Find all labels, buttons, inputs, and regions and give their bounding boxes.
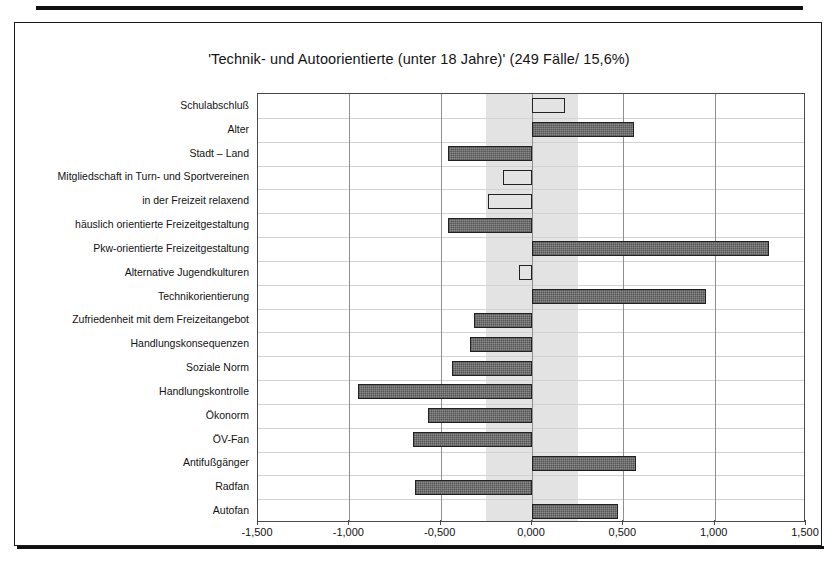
row-separator-gridline [258, 428, 804, 429]
bar-6 [532, 241, 769, 256]
bar-9 [474, 313, 532, 328]
row-separator-gridline [258, 142, 804, 143]
x-axis-tick-label-0: -1,500 [241, 526, 272, 538]
x-axis-tick-label-4: 0,500 [609, 526, 637, 538]
x-axis-tick-2 [440, 520, 441, 525]
y-axis-label-16: Radfan [215, 480, 249, 492]
chart-frame: 'Technik- und Autoorientierte (unter 18 … [14, 22, 822, 546]
y-axis-label-5: häuslich orientierte Freizeitgestaltung [75, 218, 249, 230]
bar-8 [532, 289, 706, 304]
vertical-gridline [715, 94, 716, 521]
row-separator-gridline [258, 261, 804, 262]
bar-17 [532, 504, 618, 519]
plot-area [257, 93, 805, 522]
x-axis-tick-6 [805, 520, 806, 525]
x-axis-tick-label-1: -1,000 [333, 526, 364, 538]
bar-7 [519, 265, 532, 280]
bar-5 [448, 218, 532, 233]
row-separator-gridline [258, 380, 804, 381]
y-axis-label-1: Alter [227, 123, 249, 135]
x-axis-tick-3 [531, 520, 532, 525]
x-axis-tick-labels: -1,500-1,000-0,5000,0000,5001,0001,500 [257, 526, 805, 546]
x-axis-tick-4 [622, 520, 623, 525]
bar-15 [532, 456, 636, 471]
y-axis-label-13: Ökonorm [206, 409, 249, 421]
bar-14 [413, 432, 532, 447]
row-separator-gridline [258, 499, 804, 500]
row-separator-gridline [258, 404, 804, 405]
y-axis-label-8: Technikorientierung [158, 290, 249, 302]
x-axis-tick-label-6: 1,500 [791, 526, 819, 538]
vertical-gridline [441, 94, 442, 521]
bar-16 [415, 480, 532, 495]
chart-title: 'Technik- und Autoorientierte (unter 18 … [15, 51, 823, 67]
y-axis-label-17: Autofan [213, 504, 249, 516]
row-separator-gridline [258, 118, 804, 119]
x-axis-tick-label-2: -0,500 [424, 526, 455, 538]
x-axis-tick-label-5: 1,000 [700, 526, 728, 538]
y-axis-label-14: ÖV-Fan [213, 433, 249, 445]
bar-1 [532, 122, 634, 137]
y-axis-category-labels: SchulabschlußAlterStadt – LandMitgliedsc… [15, 93, 255, 522]
bar-12 [358, 384, 532, 399]
row-separator-gridline [258, 189, 804, 190]
bar-13 [428, 408, 532, 423]
row-separator-gridline [258, 475, 804, 476]
bar-11 [452, 361, 532, 376]
y-axis-label-2: Stadt – Land [189, 147, 249, 159]
y-axis-label-6: Pkw-orientierte Freizeitgestaltung [93, 242, 249, 254]
y-axis-label-10: Handlungskonsequenzen [130, 337, 249, 349]
vertical-gridline [349, 94, 350, 521]
x-axis-tick-5 [714, 520, 715, 525]
x-axis-tick-1 [348, 520, 349, 525]
bar-2 [448, 146, 532, 161]
x-axis-tick-label-3: 0,000 [517, 526, 545, 538]
row-separator-gridline [258, 452, 804, 453]
y-axis-label-3: Mitgliedschaft in Turn- und Sportvereine… [58, 170, 249, 182]
bar-4 [488, 194, 532, 209]
y-axis-label-12: Handlungskontrolle [159, 385, 249, 397]
y-axis-label-9: Zufriedenheit mit dem Freizeitangebot [72, 313, 249, 325]
bar-0 [532, 98, 565, 113]
plot-wrapper [257, 93, 805, 522]
y-axis-label-7: Alternative Jugendkulturen [125, 266, 249, 278]
bar-10 [470, 337, 532, 352]
page-top-rule [36, 6, 803, 10]
y-axis-label-15: Antifußgänger [183, 456, 249, 468]
row-separator-gridline [258, 237, 804, 238]
row-separator-gridline [258, 213, 804, 214]
y-axis-label-4: in der Freizeit relaxend [142, 194, 249, 206]
row-separator-gridline [258, 285, 804, 286]
y-axis-label-11: Soziale Norm [186, 361, 249, 373]
row-separator-gridline [258, 309, 804, 310]
row-separator-gridline [258, 166, 804, 167]
y-axis-label-0: Schulabschluß [180, 99, 249, 111]
x-axis-tick-0 [257, 520, 258, 525]
row-separator-gridline [258, 356, 804, 357]
row-separator-gridline [258, 332, 804, 333]
bar-3 [503, 170, 532, 185]
